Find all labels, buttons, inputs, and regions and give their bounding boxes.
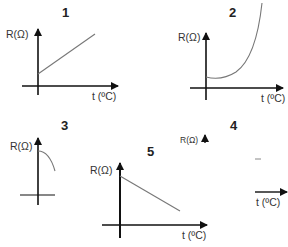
graph-1-xlabel: t (ºC) xyxy=(92,91,116,102)
graph-3-number: 3 xyxy=(61,119,68,132)
graph-4 xyxy=(205,135,287,192)
graph-4-xlabel: t (ºC) xyxy=(256,197,280,208)
graph-2 xyxy=(190,3,283,100)
graph-5-ylabel: R(Ω) xyxy=(90,165,112,176)
graph-4-ylabel: R(Ω) xyxy=(180,136,198,145)
graph-4-number: 4 xyxy=(230,119,237,132)
graph-2-ylabel: R(Ω) xyxy=(178,32,200,43)
graph-5 xyxy=(102,163,207,238)
graph-3-ylabel: R(Ω) xyxy=(10,141,32,152)
graph-2-xlabel: t (ºC) xyxy=(261,93,285,104)
graph-5-xlabel: t (ºC) xyxy=(182,230,206,241)
graph-5-number: 5 xyxy=(147,145,154,158)
graph-1 xyxy=(22,29,118,95)
graph-2-number: 2 xyxy=(229,6,236,19)
graph-3-curve xyxy=(38,151,55,171)
graph-1-ylabel: R(Ω) xyxy=(6,29,28,40)
graph-1-curve xyxy=(38,34,95,74)
graphs-canvas xyxy=(0,0,288,247)
graph-1-number: 1 xyxy=(62,6,69,19)
graph-5-curve xyxy=(120,176,180,211)
